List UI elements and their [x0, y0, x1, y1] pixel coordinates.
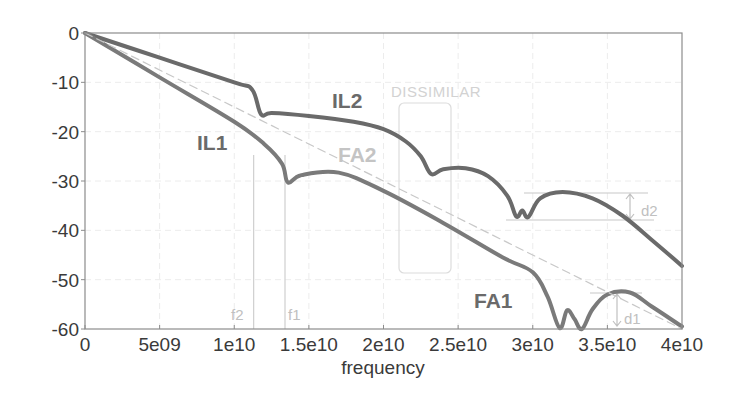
d1-label: d1: [624, 310, 641, 327]
fa2-label: FA2: [338, 143, 377, 166]
x-tick-label: 3.5e10: [578, 334, 636, 355]
y-tick-label: 0: [68, 23, 79, 44]
y-tick-label: -20: [52, 122, 79, 143]
d2-arrow-icon: [626, 194, 634, 219]
il2-label: IL2: [332, 89, 362, 112]
y-tick-label: -30: [52, 171, 79, 192]
y-tick-label: -10: [52, 72, 79, 93]
x-tick-label: 1.5e10: [280, 334, 338, 355]
annotation-shapes: [254, 103, 654, 329]
il1-label: IL1: [197, 131, 228, 154]
x-axis-title: frequency: [341, 357, 425, 378]
x-tick-label: 2e10: [362, 334, 404, 355]
d2-label: d2: [641, 202, 658, 219]
line-chart: 05e091e101.5e102e102.5e103e103.5e104e100…: [0, 0, 744, 397]
x-tick-label: 4e10: [661, 334, 703, 355]
x-tick-label: 3e10: [512, 334, 554, 355]
f1-marker-label: f1: [288, 306, 301, 323]
y-tick-label: -50: [52, 270, 79, 291]
f2-marker-label: f2: [231, 306, 244, 323]
x-tick-label: 5e09: [138, 334, 180, 355]
d1-arrow-icon: [613, 294, 621, 326]
x-tick-label: 0: [80, 334, 91, 355]
x-tick-label: 2.5e10: [429, 334, 487, 355]
fa1-label: FA1: [474, 289, 513, 312]
y-tick-label: -60: [52, 319, 79, 340]
x-tick-label: 1e10: [213, 334, 255, 355]
dissimilar-label: DISSIMILAR: [391, 83, 481, 100]
dissimilar-box: [399, 103, 451, 273]
y-tick-label: -40: [52, 220, 79, 241]
